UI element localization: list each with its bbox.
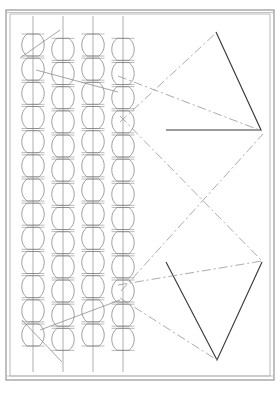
drawing-canvas: [0, 0, 280, 395]
technical-drawing-svg: [0, 0, 280, 395]
